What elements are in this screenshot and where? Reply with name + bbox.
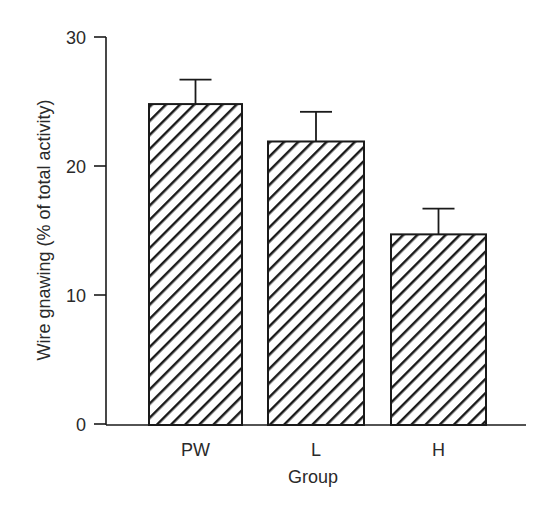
y-axis: 0102030 [66, 28, 106, 435]
y-tick-label: 30 [66, 28, 86, 48]
bar-l: L [268, 112, 364, 460]
bar-h: H [391, 209, 486, 460]
y-tick-label: 20 [66, 157, 86, 177]
x-axis-title: Group [288, 467, 338, 487]
y-axis-title: Wire gnawing (% of total activity) [34, 99, 54, 360]
bar-pw: PW [149, 80, 242, 460]
bars: PWLH [149, 80, 486, 460]
x-tick-label: L [311, 440, 321, 460]
x-tick-label: PW [181, 440, 210, 460]
bar-rect [391, 234, 486, 425]
y-tick-label: 10 [66, 286, 86, 306]
y-tick-label: 0 [76, 415, 86, 435]
bar-chart: 0102030 PWLH Wire gnawing (% of total ac… [0, 0, 553, 511]
bar-rect [268, 141, 364, 425]
x-tick-label: H [432, 440, 445, 460]
bar-rect [149, 104, 242, 425]
